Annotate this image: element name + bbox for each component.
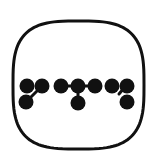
connected-dots-logo-icon [0,0,156,162]
dot [19,95,34,110]
dot [71,96,86,111]
dot [54,79,69,94]
dot [105,79,120,94]
dot [71,79,86,94]
dot [20,79,35,94]
squircle-dots-icon [0,0,156,162]
dot [120,95,135,110]
dot [35,79,50,94]
dot [120,79,135,94]
dot [88,79,103,94]
